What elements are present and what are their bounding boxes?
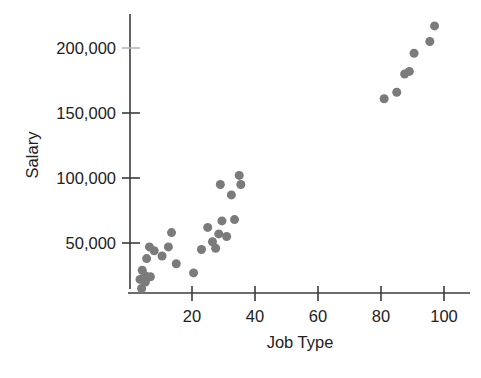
x-tick-label-20: 20 bbox=[183, 307, 201, 325]
data-point bbox=[236, 180, 245, 189]
x-tick-label-40: 40 bbox=[246, 307, 264, 325]
data-point bbox=[405, 67, 414, 76]
data-point bbox=[172, 259, 181, 268]
y-tick-label-50000: 50,000 bbox=[66, 234, 116, 252]
data-point bbox=[392, 88, 401, 97]
data-point bbox=[203, 223, 212, 232]
y-tick-label-200000: 200,000 bbox=[56, 39, 116, 57]
x-axis-tick-labels: 20406080100 bbox=[183, 307, 458, 325]
y-axis-tick-labels: 50,000100,000150,000200,000 bbox=[56, 39, 116, 252]
plot-axes bbox=[128, 14, 470, 293]
data-point bbox=[167, 228, 176, 237]
data-point bbox=[430, 21, 439, 30]
scatter-points-group bbox=[136, 21, 440, 293]
data-point bbox=[164, 242, 173, 251]
y-axis-ticks bbox=[122, 48, 140, 243]
x-tick-label-60: 60 bbox=[309, 307, 327, 325]
y-tick-label-100000: 100,000 bbox=[56, 169, 116, 187]
data-point bbox=[211, 244, 220, 253]
data-point bbox=[189, 268, 198, 277]
data-point bbox=[216, 180, 225, 189]
data-point bbox=[380, 94, 389, 103]
data-point bbox=[217, 216, 226, 225]
scatter-plot-figure: 50,000100,000150,000200,000 20406080100 … bbox=[0, 0, 481, 378]
data-point bbox=[146, 272, 155, 281]
data-point bbox=[150, 246, 159, 255]
y-axis-title: Salary bbox=[23, 131, 41, 179]
data-point bbox=[142, 254, 151, 263]
data-point bbox=[425, 37, 434, 46]
data-point bbox=[230, 215, 239, 224]
x-axis-title: Job Type bbox=[267, 333, 334, 351]
data-point bbox=[158, 252, 167, 261]
data-point bbox=[214, 229, 223, 238]
x-tick-label-80: 80 bbox=[372, 307, 390, 325]
data-point bbox=[227, 190, 236, 199]
x-tick-label-100: 100 bbox=[430, 307, 458, 325]
data-point bbox=[222, 232, 231, 241]
y-tick-label-150000: 150,000 bbox=[56, 104, 116, 122]
data-point bbox=[410, 49, 419, 58]
data-point bbox=[235, 171, 244, 180]
data-point bbox=[197, 245, 206, 254]
plot-canvas: 50,000100,000150,000200,000 20406080100 … bbox=[0, 0, 481, 378]
